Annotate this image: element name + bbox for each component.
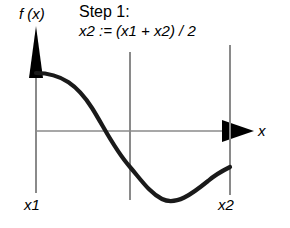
x-axis-arrowhead-icon — [222, 120, 254, 142]
y-axis-arrowhead-icon — [29, 26, 43, 78]
x2-label: x2 — [218, 196, 234, 213]
y-axis-label: f (x) — [19, 5, 45, 22]
x1-label: x1 — [24, 196, 40, 213]
function-curve — [36, 73, 230, 201]
x-axis-label: x — [258, 122, 266, 139]
step-title-label: Step 1: — [79, 3, 130, 21]
bisection-step-diagram: f (x) Step 1: x2 := (x1 + x2) / 2 x1 x2 … — [0, 0, 290, 228]
formula-label: x2 := (x1 + x2) / 2 — [79, 22, 196, 39]
